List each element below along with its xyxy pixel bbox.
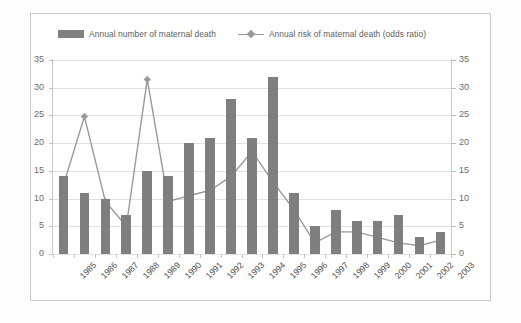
bar-2002 [415, 237, 425, 254]
y-tickmark-right [452, 171, 456, 172]
x-tickmark [200, 254, 201, 258]
bar-1989 [142, 171, 152, 254]
bar-1988 [121, 215, 131, 254]
y-tick-label-left: 0 [18, 248, 44, 258]
bar-1995 [268, 77, 278, 254]
bar-1986 [80, 193, 90, 254]
y-tick-label-left: 30 [18, 82, 44, 92]
chart-legend: Annual number of maternal death Annual r… [58, 26, 478, 42]
y-tick-label-left: 35 [18, 54, 44, 64]
y-tick-label-right: 15 [459, 165, 485, 175]
y-tick-label-left: 15 [18, 165, 44, 175]
legend-item-line: Annual risk of maternal death (odds rati… [238, 29, 426, 39]
odds-ratio-marker-1989 [144, 76, 151, 83]
y-tick-label-right: 5 [459, 220, 485, 230]
x-tickmark [409, 254, 410, 258]
bar-1993 [226, 99, 236, 254]
y-tick-label-right: 25 [459, 109, 485, 119]
x-tickmark [367, 254, 368, 258]
gridline [53, 254, 451, 255]
bar-1991 [184, 143, 194, 254]
y-tick-label-right: 35 [459, 54, 485, 64]
x-tickmark [221, 254, 222, 258]
bar-1994 [247, 138, 257, 254]
bar-2001 [394, 215, 404, 254]
x-tickmark [116, 254, 117, 258]
y-tickmark-right [452, 254, 456, 255]
x-tickmark [388, 254, 389, 258]
x-tickmark [158, 254, 159, 258]
y-tick-label-right: 20 [459, 137, 485, 147]
x-tickmark [74, 254, 75, 258]
y-tickmark-right [452, 115, 456, 116]
bar-1992 [205, 138, 215, 254]
x-tickmark [137, 254, 138, 258]
bar-1987 [101, 199, 111, 254]
y-tickmark-right [452, 199, 456, 200]
y-tick-label-left: 25 [18, 109, 44, 119]
line-diamond-icon [238, 30, 264, 38]
bar-1997 [310, 226, 320, 254]
bar-swatch-icon [58, 30, 84, 38]
bar-2000 [373, 221, 383, 254]
x-tickmark [95, 254, 96, 258]
x-tickmark [53, 254, 54, 258]
y-tickmark-right [452, 226, 456, 227]
x-tickmark [304, 254, 305, 258]
bar-2003 [436, 232, 446, 254]
legend-label-bars: Annual number of maternal death [89, 29, 216, 39]
bar-1996 [289, 193, 299, 254]
bar-1990 [163, 176, 173, 254]
x-tickmark [262, 254, 263, 258]
legend-item-bars: Annual number of maternal death [58, 29, 216, 39]
y-tickmark-right [452, 60, 456, 61]
y-tick-label-right: 30 [459, 82, 485, 92]
y-tickmark-right [452, 88, 456, 89]
x-tickmark [325, 254, 326, 258]
plot-area [53, 60, 451, 254]
y-tick-label-left: 10 [18, 193, 44, 203]
x-tickmark [346, 254, 347, 258]
y-tick-label-left: 20 [18, 137, 44, 147]
y-tick-label-left: 5 [18, 220, 44, 230]
legend-label-line: Annual risk of maternal death (odds rati… [269, 29, 426, 39]
bar-1999 [352, 221, 362, 254]
y-tickmark-right [452, 143, 456, 144]
x-tickmark [242, 254, 243, 258]
y-tick-label-right: 10 [459, 193, 485, 203]
x-tickmark [451, 254, 452, 258]
y-tick-label-right: 0 [459, 248, 485, 258]
x-tickmark [179, 254, 180, 258]
bar-1998 [331, 210, 341, 254]
chart-figure: Annual number of maternal death Annual r… [0, 0, 521, 323]
x-tickmark [430, 254, 431, 258]
bar-1985 [59, 176, 69, 254]
x-tickmark [283, 254, 284, 258]
odds-ratio-marker-1986 [81, 113, 88, 120]
